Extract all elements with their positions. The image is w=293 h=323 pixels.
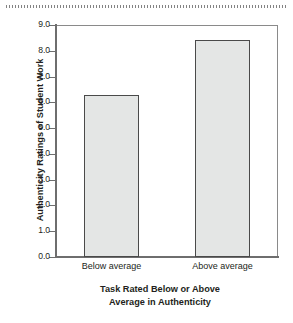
y-axis-tick: [49, 102, 56, 103]
y-axis-tick: [49, 51, 56, 52]
y-axis-title: Authenticity Ratings of Student Work: [35, 20, 45, 260]
y-axis-line: [55, 24, 57, 258]
y-axis-tick: [49, 257, 56, 258]
y-axis-tick: [49, 128, 56, 129]
y-axis-tick: [49, 77, 56, 78]
bar-above-average: [195, 40, 250, 257]
x-axis-category-label: Below average: [57, 261, 167, 271]
x-axis-title-line-1: Task Rated Below or Above: [40, 283, 280, 296]
x-axis-category-label: Above average: [168, 261, 278, 271]
y-axis-tick: [49, 154, 56, 155]
bar-below-average: [84, 95, 139, 257]
x-axis-title: Task Rated Below or Above Average in Aut…: [40, 283, 280, 308]
y-axis-tick: [49, 180, 56, 181]
y-axis-tick: [49, 205, 56, 206]
y-axis-tick: [49, 25, 56, 26]
y-axis-tick: [49, 231, 56, 232]
x-axis-title-line-2: Average in Authenticity: [40, 296, 280, 309]
bar-chart-figure: 0.01.02.03.04.05.06.07.08.09.0 Below ave…: [0, 0, 293, 323]
